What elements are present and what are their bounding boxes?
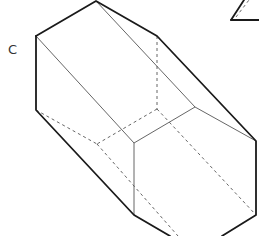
hidden-edge xyxy=(97,144,178,236)
inner-edge xyxy=(96,1,195,107)
front-face-edge xyxy=(134,107,195,143)
outline-left xyxy=(36,36,170,236)
outline-edges xyxy=(36,1,256,236)
hidden-edge xyxy=(97,109,157,144)
fragment-edge xyxy=(231,0,244,20)
visible-inner-edges xyxy=(36,1,256,215)
outline-top xyxy=(36,1,256,236)
front-face-edge xyxy=(195,107,256,141)
partial-figure-fragment xyxy=(231,0,259,20)
hidden-edge xyxy=(36,110,97,144)
diagram-canvas: C xyxy=(0,0,259,236)
vertex-label-c: C xyxy=(8,42,17,57)
